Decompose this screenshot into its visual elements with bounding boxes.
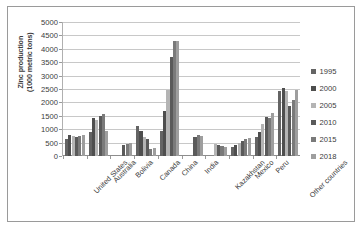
y-axis-tick-label: 2500 [14,85,58,94]
bar-group [229,22,253,156]
legend-label: 2018 [320,152,337,161]
y-axis-tick-label: 0 [14,152,58,161]
bar [224,147,227,156]
bar-group [63,22,87,156]
legend-swatch-icon [311,103,316,108]
legend-label: 2005 [320,101,337,110]
bar [200,136,203,156]
y-axis-tick-label: 4500 [14,31,58,40]
chart-container: Zinc production (1000 metric tons) 05001… [7,6,355,222]
x-axis-label: Bolivia [133,158,155,180]
bar-group [158,22,182,156]
bar [153,148,156,156]
y-axis-tick-mark [59,62,62,63]
legend-swatch-icon [311,154,316,159]
x-axis-label: India [203,158,221,176]
legend-swatch-icon [311,137,316,142]
y-axis-tick-mark [59,143,62,144]
legend-item[interactable]: 2018 [311,148,355,165]
y-axis-tick-label: 3000 [14,71,58,80]
bar-group [110,22,134,156]
legend-swatch-icon [311,86,316,91]
bar [295,90,298,156]
legend-swatch-icon [311,120,316,125]
bar [176,41,179,156]
legend-item[interactable]: 2005 [311,97,355,114]
y-axis-tick-mark [59,76,62,77]
y-axis-tick-label: 5000 [14,18,58,27]
bar [129,143,132,156]
bar [248,138,251,156]
plot-area: 0500100015002000250030003500400045005000 [62,22,300,156]
y-axis-tick-mark [59,49,62,50]
y-axis-tick-label: 500 [14,138,58,147]
y-axis-tick-mark [59,102,62,103]
x-axis-label: China [180,158,200,178]
y-axis-tick-label: 4000 [14,44,58,53]
bar-group [87,22,111,156]
bar [271,113,274,156]
bar-group [253,22,277,156]
bar [82,135,85,156]
legend-label: 2000 [320,84,337,93]
legend-swatch-icon [311,69,316,74]
bar [105,131,108,156]
bar-group [134,22,158,156]
y-axis-tick-label: 1000 [14,125,58,134]
legend-label: 1995 [320,67,337,76]
y-axis-tick-mark [59,22,62,23]
bars-layer [63,22,300,156]
bar-group [205,22,229,156]
legend-item[interactable]: 2000 [311,80,355,97]
chart-legend: 199520002005201020152018 [311,63,355,165]
legend-label: 2010 [320,118,337,127]
y-axis-tick-mark [59,116,62,117]
y-axis-tick-label: 3500 [14,58,58,67]
x-axis-labels: United StatesAustraliaBoliviaCanadaChina… [62,156,300,216]
bar-group [276,22,300,156]
y-axis-tick-mark [59,35,62,36]
bar-group [182,22,206,156]
legend-item[interactable]: 1995 [311,63,355,80]
legend-label: 2015 [320,135,337,144]
plot-inner [62,22,300,156]
x-axis-label: Peru [274,158,291,175]
legend-item[interactable]: 2015 [311,131,355,148]
y-axis-tick-mark [59,89,62,90]
y-axis-tick-label: 2000 [14,98,58,107]
x-axis-label: Canada [158,158,182,182]
y-axis-tick-mark [59,129,62,130]
legend-item[interactable]: 2010 [311,114,355,131]
y-axis-tick-label: 1500 [14,111,58,120]
